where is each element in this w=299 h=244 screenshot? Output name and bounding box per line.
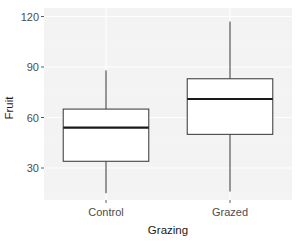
iqr-box	[187, 79, 273, 135]
y-tick-label: 60	[27, 112, 39, 124]
y-tick-label: 30	[27, 162, 39, 174]
x-axis: ControlGrazed	[88, 200, 248, 218]
y-tick-label: 90	[27, 61, 39, 73]
iqr-box	[63, 109, 149, 161]
boxplot-chart: 306090120 ControlGrazed Grazing Fruit	[0, 0, 299, 244]
x-axis-title: Grazing	[148, 224, 188, 236]
x-tick-label: Control	[88, 206, 123, 218]
y-axis-title: Fruit	[3, 96, 15, 120]
y-tick-label: 120	[21, 11, 39, 23]
x-tick-label: Grazed	[212, 206, 248, 218]
y-axis: 306090120	[21, 11, 44, 175]
